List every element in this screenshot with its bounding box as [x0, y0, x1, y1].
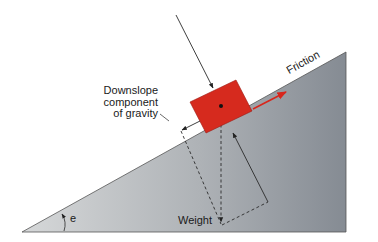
- downslope-label-line-1: Downslope: [70, 84, 158, 96]
- angle-label: e: [70, 212, 76, 224]
- downslope-leader-line: [160, 114, 169, 121]
- downslope-label-line-2: component: [70, 96, 158, 108]
- center-of-mass-dot: [219, 104, 223, 108]
- applied-force-arrow: [176, 15, 213, 88]
- downslope-label-line-3: of gravity: [70, 107, 158, 119]
- diagram-canvas: [0, 0, 378, 242]
- downslope-arrow: [182, 121, 200, 130]
- weight-label: Weight: [178, 214, 212, 226]
- inclined-plane: [22, 52, 346, 232]
- incline-diagram: Downslope component of gravity Friction …: [0, 0, 378, 242]
- downslope-component-label: Downslope component of gravity: [70, 84, 158, 119]
